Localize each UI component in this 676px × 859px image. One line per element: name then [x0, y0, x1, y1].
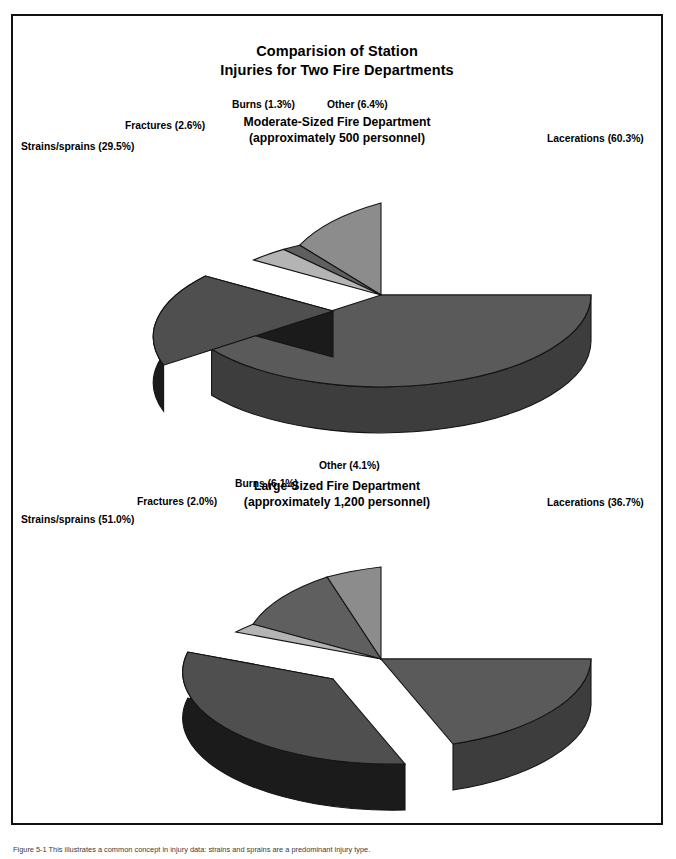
- slice-label-other-2: Other (4.1%): [319, 460, 380, 472]
- chart-2-pie-svg: [13, 518, 665, 818]
- chart-1-pie-svg: [13, 154, 665, 454]
- slice-label-strains-2: Strains/sprains (51.0%): [21, 514, 134, 526]
- chart-1-pie-stage: Burns (1.3%) Other (6.4%) Fractures (2.6…: [13, 154, 661, 454]
- slice-label-other-1: Other (6.4%): [327, 99, 388, 111]
- slice-label-lacerations-2: Lacerations (36.7%): [547, 497, 644, 509]
- chart-2-pie-stage: Other (4.1%) Burns (6.1%) Fractures (2.0…: [13, 518, 661, 818]
- slice-group-strains-2: [183, 652, 405, 810]
- page-title-line-1: Comparision of Station: [13, 42, 661, 61]
- page-title: Comparision of Station Injuries for Two …: [13, 42, 661, 80]
- figure-frame: Comparision of Station Injuries for Two …: [11, 14, 663, 825]
- slice-label-fractures-1: Fractures (2.6%): [125, 120, 205, 132]
- slice-label-burns-1: Burns (1.3%): [232, 99, 295, 111]
- slice-label-lacerations-1: Lacerations (60.3%): [547, 133, 644, 145]
- slice-label-burns-2: Burns (6.1%): [235, 478, 298, 490]
- page-title-line-2: Injuries for Two Fire Departments: [13, 61, 661, 80]
- chart-2-title: Large-Sized Fire Department: [13, 478, 661, 494]
- slice-label-fractures-2: Fractures (2.0%): [137, 496, 217, 508]
- figure-caption: Figure 5-1 This illustrates a common con…: [13, 845, 663, 854]
- chart-large-sized: Large-Sized Fire Department (approximate…: [13, 478, 661, 823]
- chart-1-title: Moderate-Sized Fire Department: [13, 114, 661, 130]
- slice-label-strains-1: Strains/sprains (29.5%): [21, 141, 134, 153]
- chart-moderate-sized: Moderate-Sized Fire Department (approxim…: [13, 114, 661, 464]
